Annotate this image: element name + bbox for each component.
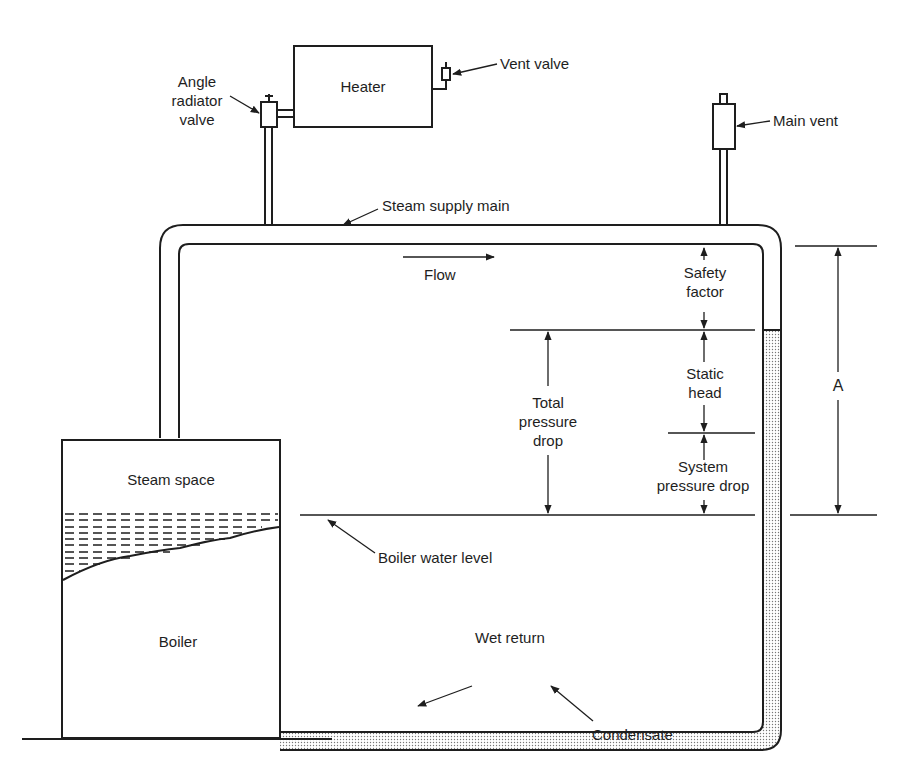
angle-radiator-valve bbox=[261, 102, 277, 127]
water-surface bbox=[63, 527, 279, 580]
wet-return-label: Wet return bbox=[475, 628, 545, 647]
boiler-label: Boiler bbox=[159, 632, 197, 651]
steam-space-label: Steam space bbox=[127, 470, 215, 489]
vent-valve-label: Vent valve bbox=[500, 54, 569, 73]
total-pressure-drop-label: Total pressure drop bbox=[519, 393, 577, 450]
static-head-label: Static head bbox=[686, 364, 724, 402]
boiler-water-level-label: Boiler water level bbox=[378, 548, 492, 567]
main-vent bbox=[713, 104, 735, 149]
dimension-a-label: A bbox=[833, 376, 844, 395]
steam-system-diagram: Heater Vent valve Angle radiator valve M… bbox=[0, 0, 912, 763]
flow-label: Flow bbox=[424, 265, 456, 284]
main-vent-label: Main vent bbox=[773, 111, 838, 130]
angle-radiator-valve-label: Angle radiator valve bbox=[172, 72, 223, 129]
heater-label: Heater bbox=[340, 77, 385, 96]
safety-factor-label: Safety factor bbox=[684, 263, 727, 301]
condensate-label: Condensate bbox=[592, 725, 673, 744]
system-pressure-drop-label: System pressure drop bbox=[657, 457, 750, 495]
vent-valve bbox=[442, 68, 450, 80]
steam-supply-main-label: Steam supply main bbox=[382, 196, 510, 215]
